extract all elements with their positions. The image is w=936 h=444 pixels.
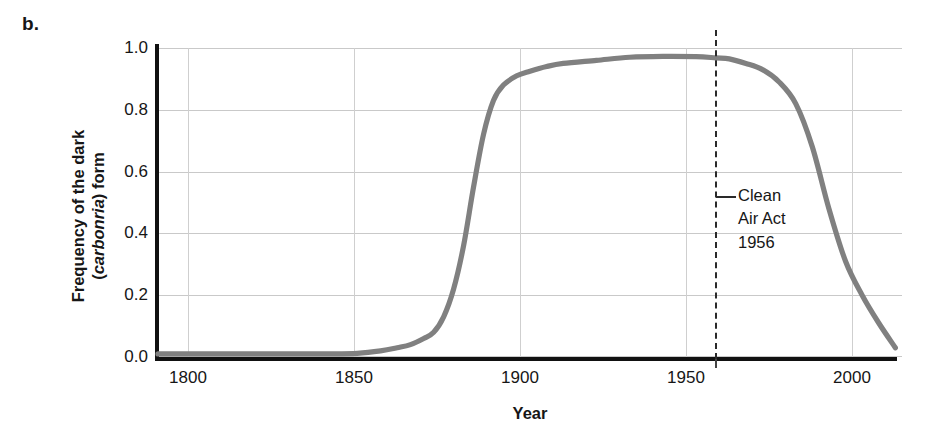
- gridline-y-0.8: [158, 110, 902, 111]
- y-tick-label-group: 1.0 0.8 0.6 0.4 0.2 0.0: [104, 0, 148, 444]
- y-tick-label-0.8: 0.8: [106, 100, 148, 120]
- gridline-y-0.2: [158, 295, 902, 296]
- annotation-line-3: 1956: [738, 231, 786, 254]
- y-axis-title: Frequency of the dark (carbonria) form: [68, 66, 108, 366]
- plot-area: [158, 48, 902, 357]
- gridline-x-1800: [188, 48, 189, 357]
- gridline-y-1.0: [158, 48, 902, 49]
- x-tick-label-1900: 1900: [480, 368, 560, 388]
- annotation-line-1: Clean: [738, 184, 786, 207]
- x-axis-title: Year: [158, 404, 902, 423]
- clean-air-act-leader-line: [716, 196, 736, 198]
- y-tick-label-0.4: 0.4: [106, 223, 148, 243]
- y-axis-line: [155, 44, 159, 361]
- y-tick-label-1.0: 1.0: [106, 38, 148, 58]
- y-tick-label-0.0: 0.0: [106, 347, 148, 367]
- y-tick-label-0.2: 0.2: [106, 285, 148, 305]
- y-tick-label-0.6: 0.6: [106, 162, 148, 182]
- x-tick-label-1800: 1800: [148, 368, 228, 388]
- clean-air-act-annotation: Clean Air Act 1956: [738, 184, 786, 254]
- annotation-line-2: Air Act: [738, 207, 786, 230]
- figure-panel-b: b. Frequency of the dark (carbonria) for…: [0, 0, 936, 444]
- gridline-x-1850: [354, 48, 355, 357]
- panel-label: b.: [22, 13, 39, 35]
- gridline-y-0.4: [158, 233, 902, 234]
- x-tick-label-2000: 2000: [812, 368, 892, 388]
- x-tick-label-1950: 1950: [646, 368, 726, 388]
- x-tick-label-1850: 1850: [314, 368, 394, 388]
- gridline-x-1950: [686, 48, 687, 357]
- gridline-y-0.6: [158, 172, 902, 173]
- clean-air-act-dashed-line: [715, 30, 717, 359]
- y-axis-title-line1: Frequency of the dark: [68, 66, 88, 366]
- gridline-x-1900: [520, 48, 521, 357]
- x-axis-line: [155, 357, 897, 361]
- gridline-x-2000: [852, 48, 853, 357]
